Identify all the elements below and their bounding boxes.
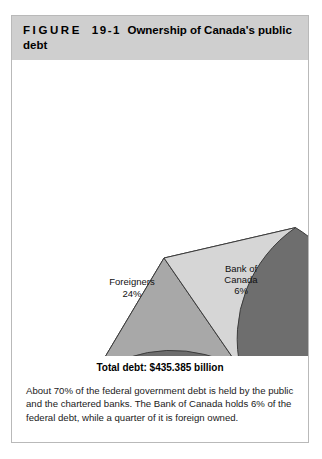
pie-chart: Public and chartered banks 70% Foreigner… <box>12 60 308 356</box>
pie-svg <box>12 60 308 356</box>
figure-header-text: FIGURE 19-1 Ownership of Canada's public… <box>23 23 298 53</box>
figure-header: FIGURE 19-1 Ownership of Canada's public… <box>12 16 308 60</box>
figure-label-word: FIGURE <box>23 24 82 36</box>
total-debt-line: Total debt: $435.385 billion <box>12 362 308 373</box>
pie-graphic <box>12 60 308 356</box>
figure-number: 19-1 <box>92 24 121 36</box>
figure-frame: FIGURE 19-1 Ownership of Canada's public… <box>11 15 309 443</box>
figure-caption: About 70% of the federal government debt… <box>26 384 295 424</box>
